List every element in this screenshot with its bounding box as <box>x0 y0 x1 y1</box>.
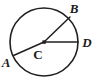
center-label-c: C <box>33 47 42 62</box>
point-label-b: B <box>69 1 79 16</box>
center-point-dot <box>42 40 45 43</box>
geometry-figure: C A B D <box>0 0 92 83</box>
circle-diagram-svg: C A B D <box>0 0 92 83</box>
point-label-d: D <box>81 35 92 50</box>
point-label-a: A <box>1 55 11 70</box>
